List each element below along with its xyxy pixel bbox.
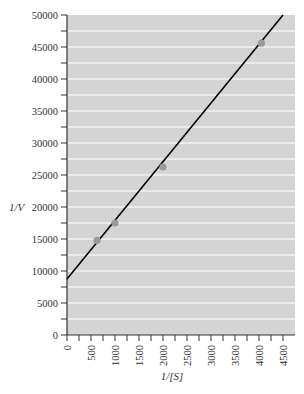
y-axis-label: 1/V (9, 201, 26, 213)
x-tick-label: 500 (86, 345, 97, 361)
x-tick-label: 1000 (110, 345, 121, 366)
x-tick-label: 3500 (230, 345, 241, 366)
x-tick-label: 1500 (134, 345, 145, 366)
y-axis-ticks: 0500010000150002000025000300003500040000… (32, 10, 67, 341)
data-point (159, 163, 166, 170)
y-tick-label: 15000 (32, 234, 58, 245)
y-tick-label: 30000 (32, 138, 58, 149)
x-tick-label: 4000 (254, 345, 265, 366)
x-axis-label: 1/[S] (161, 370, 184, 382)
y-tick-label: 0 (53, 330, 58, 341)
y-tick-label: 35000 (32, 106, 58, 117)
x-tick-label: 0 (62, 345, 73, 350)
x-tick-label: 4500 (278, 345, 289, 366)
y-tick-label: 10000 (32, 266, 58, 277)
x-tick-label: 2000 (158, 345, 169, 366)
x-tick-label: 2500 (182, 345, 193, 366)
y-tick-label: 45000 (32, 42, 58, 53)
y-tick-label: 50000 (32, 10, 58, 21)
lineweaver-burk-chart: 0500010000150002000025000300003500040000… (0, 0, 304, 394)
x-axis-ticks: 050010001500200025003000350040004500 (62, 335, 289, 366)
y-tick-label: 40000 (32, 74, 58, 85)
x-tick-label: 3000 (206, 345, 217, 366)
data-point (93, 237, 100, 244)
y-tick-label: 20000 (32, 202, 58, 213)
y-tick-label: 25000 (32, 170, 58, 181)
data-point (111, 219, 118, 226)
data-point (258, 40, 265, 47)
y-tick-label: 5000 (37, 298, 58, 309)
